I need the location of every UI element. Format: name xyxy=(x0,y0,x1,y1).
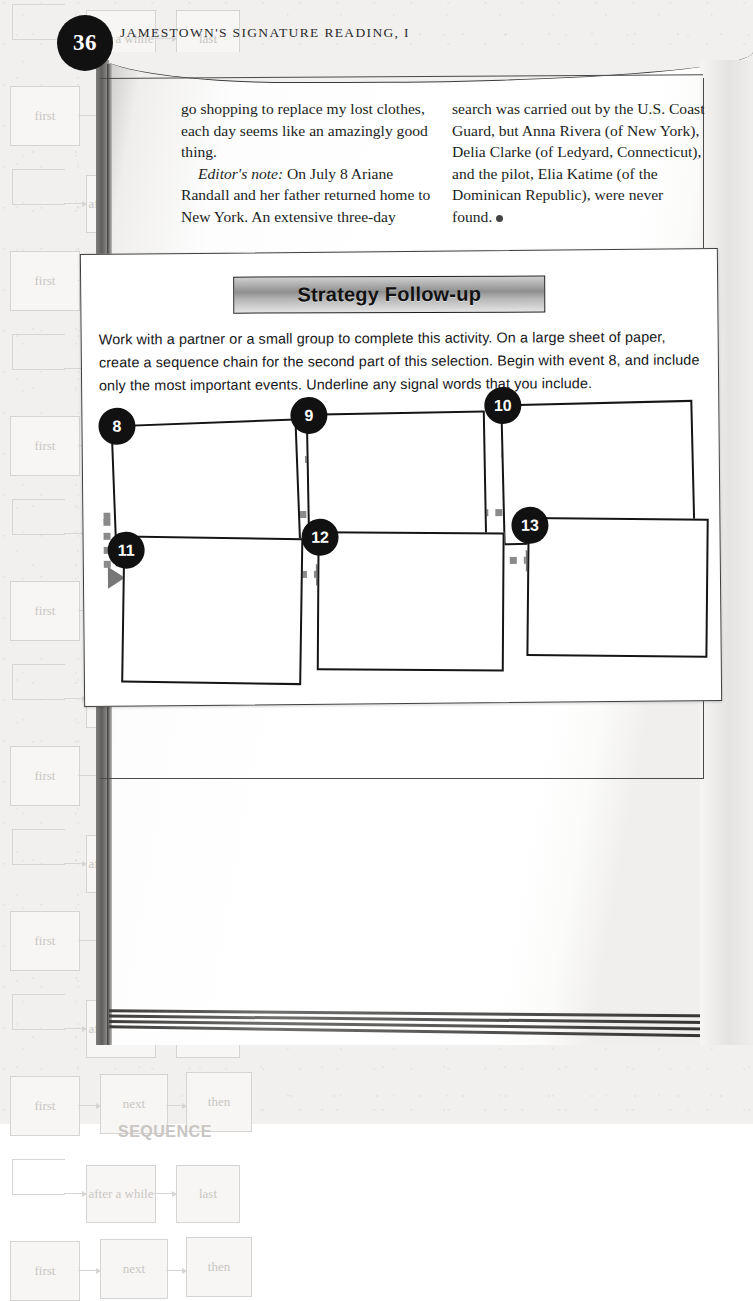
article-column-right: search was carried out by the U.S. Coast… xyxy=(452,98,707,228)
motif-arrow xyxy=(64,1193,86,1194)
event-box-12[interactable] xyxy=(317,531,505,671)
editors-note-label: Editor's note: xyxy=(198,165,283,182)
motif-signal-word-box: first xyxy=(10,1241,80,1301)
motif-hook xyxy=(12,1159,65,1195)
motif-arrow xyxy=(166,1270,186,1271)
motif-signal-word-box: after a while xyxy=(86,1165,156,1223)
motif-arrow xyxy=(64,203,86,204)
motif-arrow xyxy=(64,698,86,699)
event-number-badge-10: 10 xyxy=(484,387,521,424)
motif-hook xyxy=(12,664,65,700)
article-paragraph-end: search was carried out by the U.S. Coast… xyxy=(452,98,707,228)
motif-arrow xyxy=(64,863,86,864)
motif-hook xyxy=(12,994,65,1030)
event-number-badge-9: 9 xyxy=(290,397,327,434)
event-number-badge-11: 11 xyxy=(108,531,145,568)
sequence-motif-tile: after a whilelastSEQUENCEfirstnextthen xyxy=(0,1115,230,1280)
end-of-article-dot xyxy=(496,215,503,222)
event-number-badge-13: 13 xyxy=(511,507,548,544)
article-paragraph-continued: go shopping to replace my lost clothes, … xyxy=(181,98,436,163)
motif-arrow xyxy=(64,1028,86,1029)
motif-arrow xyxy=(166,1105,186,1106)
strategy-follow-up-banner: Strategy Follow-up xyxy=(233,276,545,314)
motif-sequence-label: SEQUENCE xyxy=(118,1123,212,1141)
page-number-badge: 36 xyxy=(57,15,113,71)
article-paragraph-end-text: search was carried out by the U.S. Coast… xyxy=(452,100,704,225)
motif-hook xyxy=(12,169,65,205)
motif-arrow xyxy=(154,1193,176,1194)
motif-hook xyxy=(12,334,65,370)
strategy-follow-up-title: Strategy Follow-up xyxy=(297,283,481,307)
event-box-11[interactable] xyxy=(121,535,303,685)
motif-signal-word-box: last xyxy=(176,1165,240,1223)
article-column-left: go shopping to replace my lost clothes, … xyxy=(181,98,436,228)
motif-hook xyxy=(12,829,65,865)
strategy-follow-up-panel: Strategy Follow-up Work with a partner o… xyxy=(80,248,722,707)
motif-signal-word-box: then xyxy=(186,1237,252,1297)
motif-arrow xyxy=(78,1270,100,1271)
motif-hook xyxy=(12,499,65,535)
event-box-13[interactable] xyxy=(526,517,708,658)
motif-arrow xyxy=(78,1105,100,1106)
event-number-badge-8: 8 xyxy=(98,408,135,445)
event-number-badge-12: 12 xyxy=(301,519,338,556)
running-head: JAMESTOWN'S SIGNATURE READING, I xyxy=(120,25,410,41)
activity-instructions: Work with a partner or a small group to … xyxy=(99,326,703,397)
editors-note-paragraph: Editor's note: On July 8 Ariane Randall … xyxy=(181,163,436,228)
motif-signal-word-box: next xyxy=(100,1239,168,1299)
